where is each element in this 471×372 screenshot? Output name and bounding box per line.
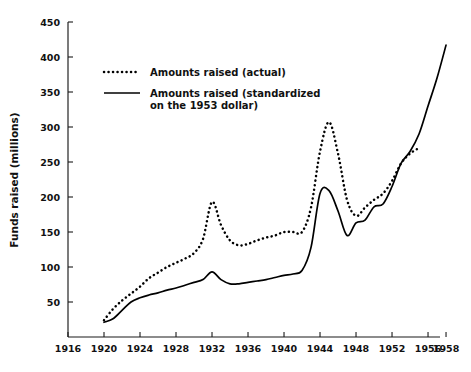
y-tick-label: 350	[40, 87, 60, 98]
y-tick-label: 150	[40, 227, 60, 238]
chart-container: 50100150200250300350400450 1916192019241…	[0, 0, 471, 372]
legend-label-actual: Amounts raised (actual)	[150, 67, 286, 78]
x-tick-label: 1920	[91, 343, 118, 354]
y-tick-label: 300	[40, 122, 60, 133]
x-tick-label: 1958	[433, 343, 460, 354]
y-axis-tick-labels: 50100150200250300350400450	[40, 17, 60, 308]
x-axis-tick-labels: 1916192019241928193219361940194419481952…	[55, 343, 460, 354]
x-tick-label: 1916	[55, 343, 82, 354]
x-tick-label: 1936	[235, 343, 262, 354]
y-tick-label: 400	[40, 52, 60, 63]
legend-label-standardized-line2: on the 1953 dollar)	[150, 100, 258, 111]
x-tick-label: 1952	[379, 343, 405, 354]
y-tick-label: 100	[40, 262, 60, 273]
funds-raised-line-chart: 50100150200250300350400450 1916192019241…	[0, 0, 471, 372]
y-tick-label: 200	[40, 192, 60, 203]
x-tick-label: 1948	[343, 343, 370, 354]
y-tick-label: 450	[40, 17, 60, 28]
y-tick-label: 250	[40, 157, 60, 168]
x-tick-label: 1928	[163, 343, 190, 354]
y-tick-label: 50	[47, 297, 61, 308]
x-tick-label: 1944	[307, 343, 334, 354]
chart-background	[0, 0, 471, 372]
y-axis-title: Funds raised (millions)	[8, 112, 20, 247]
x-tick-label: 1940	[271, 343, 298, 354]
x-tick-label: 1932	[199, 343, 225, 354]
legend-label-standardized-line1: Amounts raised (standardized	[150, 88, 320, 99]
x-tick-label: 1924	[127, 343, 154, 354]
